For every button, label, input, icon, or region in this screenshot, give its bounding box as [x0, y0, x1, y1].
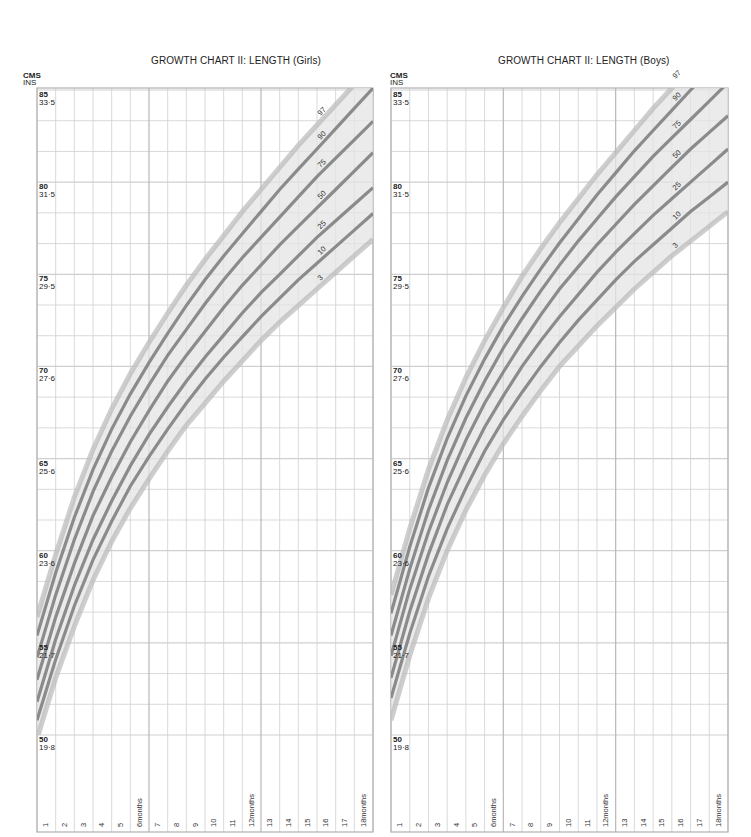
x-tick-label: 11 — [583, 819, 592, 827]
y-tick-label: 5019·8 — [39, 736, 55, 752]
x-tick-label: 9 — [191, 823, 200, 827]
x-tick-label: 13 — [620, 819, 629, 827]
x-tick-label: 2 — [414, 823, 423, 827]
x-tick-label: 3 — [79, 823, 88, 827]
x-tick-label: 12months — [601, 794, 610, 827]
x-tick-label: 18months — [714, 794, 723, 827]
x-tick-label: 1 — [41, 823, 50, 827]
y-tick-label: 8533·5 — [39, 91, 55, 107]
x-tick-label: 11 — [228, 819, 237, 827]
y-tick-label: 5521·7 — [393, 644, 409, 660]
y-tick-label: 6023·6 — [39, 552, 55, 568]
plot-area: 9790755025103 — [0, 0, 380, 837]
x-tick-label: 6months — [489, 798, 498, 827]
x-tick-label: 14 — [284, 819, 293, 827]
x-tick-label: 16 — [321, 819, 330, 827]
y-tick-label: 5019·8 — [393, 736, 409, 752]
y-tick-label: 8533·5 — [393, 91, 409, 107]
x-tick-label: 13 — [265, 819, 274, 827]
x-tick-label: 8 — [172, 823, 181, 827]
chart-girls: GROWTH CHART II: LENGTH (Girls) CMSINS 9… — [0, 0, 380, 837]
x-tick-label: 7 — [508, 823, 517, 827]
x-tick-label: 15 — [657, 819, 666, 827]
x-tick-label: 5 — [470, 823, 479, 827]
y-tick-label: 8031·5 — [39, 183, 55, 199]
x-tick-label: 10 — [564, 819, 573, 827]
x-tick-label: 8 — [526, 823, 535, 827]
y-tick-label: 7027·6 — [393, 367, 409, 383]
x-tick-label: 15 — [303, 819, 312, 827]
x-tick-label: 6months — [135, 798, 144, 827]
y-tick-label: 7529·5 — [393, 275, 409, 291]
x-tick-label: 12months — [247, 794, 256, 827]
x-tick-label: 4 — [452, 823, 461, 827]
x-tick-label: 7 — [153, 823, 162, 827]
x-tick-label: 2 — [60, 823, 69, 827]
y-tick-label: 7027·6 — [39, 367, 55, 383]
y-tick-label: 6525·6 — [393, 460, 409, 476]
x-tick-label: 1 — [395, 823, 404, 827]
x-tick-label: 9 — [545, 823, 554, 827]
x-tick-label: 17 — [695, 819, 704, 827]
y-tick-label: 8031·5 — [393, 183, 409, 199]
x-tick-label: 14 — [639, 819, 648, 827]
x-tick-label: 10 — [209, 819, 218, 827]
x-tick-label: 17 — [340, 819, 349, 827]
chart-boys: GROWTH CHART II: LENGTH (Boys) CMSINS 97… — [380, 0, 751, 837]
x-tick-label: 18months — [359, 794, 368, 827]
y-tick-label: 5521·7 — [39, 644, 55, 660]
x-tick-label: 3 — [433, 823, 442, 827]
x-tick-label: 16 — [676, 819, 685, 827]
y-tick-label: 6023·6 — [393, 552, 409, 568]
x-tick-label: 5 — [116, 823, 125, 827]
y-tick-label: 6525·6 — [39, 460, 55, 476]
x-tick-label: 4 — [97, 823, 106, 827]
percentile-label: 97 — [671, 68, 683, 80]
plot-area: 9790755025103 — [380, 0, 751, 837]
y-tick-label: 7529·5 — [39, 275, 55, 291]
